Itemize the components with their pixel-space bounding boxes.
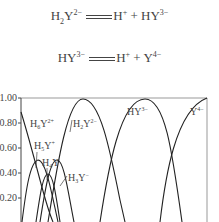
- leader-lines: [36, 120, 72, 186]
- label-h3y: H3Y−: [68, 172, 89, 184]
- y-tick-label: 0.80: [0, 117, 17, 128]
- y-tick-label: 1.00: [0, 92, 17, 103]
- label-h4y: H4Y: [42, 157, 59, 169]
- y-tick-label: 0.60: [0, 142, 17, 153]
- curve-y: [160, 98, 207, 222]
- label-y: Y4−: [190, 106, 204, 117]
- y-ticks: 1.00 0.80 0.60 0.40 0.20: [0, 92, 21, 203]
- label-h6y: H6Y2+: [30, 118, 54, 130]
- distribution-chart: 1.00 0.80 0.60 0.40 0.20 H6Y2+ H5Y+ H4Y …: [0, 0, 219, 222]
- label-h2y: H2Y2−: [73, 118, 97, 130]
- label-h5y: H5Y+: [34, 140, 55, 152]
- y-tick-label: 0.20: [0, 192, 17, 203]
- y-tick-label: 0.40: [0, 167, 17, 178]
- label-hy: HY3−: [127, 106, 148, 117]
